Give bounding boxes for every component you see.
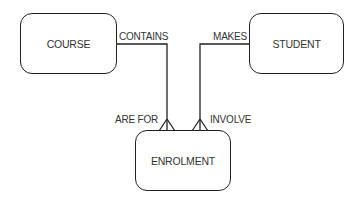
entity-label: ENROLMENT xyxy=(151,155,215,167)
entity-label: STUDENT xyxy=(272,38,320,50)
entity-enrolment[interactable]: ENROLMENT xyxy=(135,130,231,191)
relationship-label-contains: CONTAINS xyxy=(119,31,168,42)
entity-student[interactable]: STUDENT xyxy=(249,13,344,74)
entity-label: COURSE xyxy=(47,38,91,50)
relationship-label-involve: INVOLVE xyxy=(210,114,251,125)
entity-course[interactable]: COURSE xyxy=(20,13,117,74)
relationship-label-makes: MAKES xyxy=(213,31,247,42)
relationship-label-are-for: ARE FOR xyxy=(115,114,158,125)
